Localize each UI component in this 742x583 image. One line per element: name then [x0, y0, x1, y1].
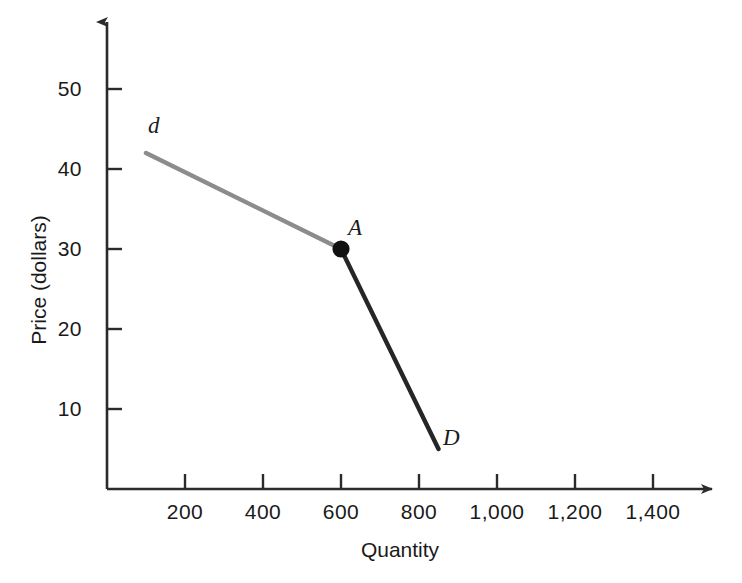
y-tick-label-10: 10: [18, 397, 82, 421]
x-tick-label-1400: 1,400: [608, 500, 698, 524]
x-tick-label-600: 600: [296, 500, 386, 524]
x-tick-marks: [185, 474, 653, 489]
demand-curve-chart: 50 40 30 20 10 200 400 600 800 1,000 1,2…: [0, 0, 742, 583]
y-tick-marks: [107, 89, 122, 409]
x-tick-label-400: 400: [218, 500, 308, 524]
point-label-A: A: [348, 215, 362, 241]
series-d-line: [146, 153, 341, 249]
y-axis-title: Price (dollars): [27, 195, 51, 365]
y-tick-label-40: 40: [18, 157, 82, 181]
x-tick-label-1200: 1,200: [530, 500, 620, 524]
x-axis-title: Quantity: [330, 538, 470, 562]
series-D-line: [341, 249, 439, 449]
point-A-marker: [332, 240, 349, 257]
y-tick-label-50: 50: [18, 77, 82, 101]
plot-area: [0, 0, 742, 583]
x-tick-label-1000: 1,000: [452, 500, 542, 524]
x-tick-label-200: 200: [140, 500, 230, 524]
curve-label-d: d: [148, 113, 160, 139]
x-tick-label-800: 800: [374, 500, 464, 524]
curve-label-D: D: [443, 425, 460, 451]
